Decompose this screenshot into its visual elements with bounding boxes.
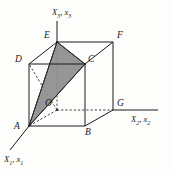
axis-label-x3-minor-sub: 3 bbox=[68, 13, 71, 19]
cube-diagram-svg bbox=[0, 0, 170, 175]
axis-label-x2: X2, x2 bbox=[131, 115, 150, 126]
vertex-label-A: A bbox=[14, 122, 20, 132]
vertex-label-C: C bbox=[88, 55, 94, 65]
vertex-label-F: F bbox=[117, 31, 123, 41]
vertex-label-B: B bbox=[85, 128, 91, 138]
vertex-label-O: O bbox=[45, 99, 52, 109]
vertex-dot-o bbox=[56, 109, 58, 111]
vertex-dot-a bbox=[28, 125, 30, 127]
vertex-label-G: G bbox=[117, 99, 124, 109]
axis-label-x1-minor-sub: 1 bbox=[20, 160, 23, 166]
axis-label-x3: X3, x3 bbox=[52, 8, 71, 19]
shaded-triangle-aec bbox=[29, 42, 85, 126]
cube-edge-b-g bbox=[85, 110, 113, 126]
vertex-dot-c bbox=[84, 63, 86, 65]
vertex-dot-e bbox=[56, 41, 58, 43]
axis-label-x2-minor-sub: 2 bbox=[147, 120, 150, 126]
axis-label-x1: X1, x1 bbox=[4, 155, 23, 166]
vertex-label-E: E bbox=[44, 31, 50, 41]
geometric-figure-container: E F D C O G A B X3, x3 X2, x2 X1, x1 bbox=[0, 0, 170, 175]
vertex-label-D: D bbox=[15, 55, 22, 65]
